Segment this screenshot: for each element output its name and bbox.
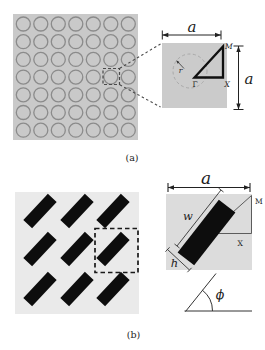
arrowhead-right-icon	[215, 33, 221, 37]
x-point-label-a: X	[224, 80, 231, 89]
bar-height-label: h	[171, 256, 178, 270]
caption-a: (a)	[125, 152, 138, 163]
lattice-constant-label-b-top: a	[201, 168, 211, 188]
arrowhead-left-icon	[168, 185, 174, 190]
m-point-label-b: M	[255, 197, 263, 206]
bar-width-label: w	[183, 209, 193, 223]
gamma-point-label-a: Γ	[192, 80, 197, 89]
bar-lattice	[23, 194, 129, 307]
lattice-constant-label-a-top: a	[188, 18, 197, 36]
figure-page: r M X Γ a a (a) w h a M X ϕ (b)	[0, 0, 265, 350]
arrowhead-right-icon	[244, 185, 250, 190]
radius-label: r	[179, 66, 183, 75]
arrowhead-down-icon	[236, 104, 240, 110]
rotation-angle-label: ϕ	[216, 287, 225, 302]
figure-canvas: r M X Γ a a (a) w h a M X ϕ (b)	[0, 0, 265, 350]
lattice-constant-label-a-right: a	[245, 70, 254, 88]
dim-tick-icon	[219, 188, 224, 192]
arrowhead-left-icon	[162, 33, 168, 37]
angle-arc	[202, 290, 212, 311]
x-point-label-b: X	[238, 239, 244, 248]
arrowhead-up-icon	[236, 46, 240, 52]
m-point-label-a: M	[224, 42, 233, 51]
caption-b: (b)	[127, 329, 141, 340]
angle-inclined-line	[186, 274, 217, 312]
